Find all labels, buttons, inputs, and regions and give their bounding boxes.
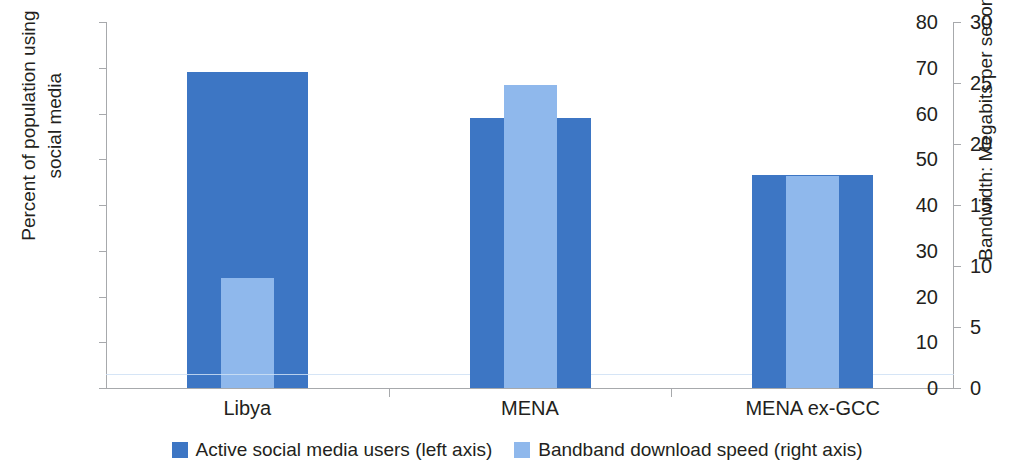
left-axis-line xyxy=(106,22,107,388)
left-tick-mark xyxy=(99,159,106,160)
legend-label: Active social media users (left axis) xyxy=(196,440,493,459)
left-tick-mark xyxy=(99,22,106,23)
right-tick-mark xyxy=(954,83,961,84)
left-tick-mark xyxy=(99,342,106,343)
left-tick-label: 10 xyxy=(878,332,938,352)
left-tick-mark xyxy=(99,297,106,298)
legend-item[interactable]: Active social media users (left axis) xyxy=(172,440,493,459)
bar-secondary xyxy=(221,278,274,388)
right-tick-mark xyxy=(954,22,961,23)
left-tick-mark xyxy=(99,68,106,69)
right-tick-label: 20 xyxy=(970,134,1030,154)
chart-legend: Active social media users (left axis)Ban… xyxy=(0,440,1034,459)
right-tick-mark xyxy=(954,327,961,328)
legend-item[interactable]: Bandband download speed (right axis) xyxy=(514,440,862,459)
right-tick-mark xyxy=(954,266,961,267)
left-axis-title: Percent of population using social media xyxy=(16,0,67,276)
right-tick-mark xyxy=(954,144,961,145)
category-separator xyxy=(671,388,672,397)
left-tick-label: 40 xyxy=(878,195,938,215)
left-tick-mark xyxy=(99,251,106,252)
right-tick-label: 30 xyxy=(970,12,1030,32)
right-tick-mark xyxy=(954,205,961,206)
left-tick-label: 0 xyxy=(878,378,938,398)
bar-secondary xyxy=(786,176,839,388)
left-tick-label: 70 xyxy=(878,58,938,78)
bar-secondary xyxy=(504,85,557,388)
left-tick-label: 60 xyxy=(878,104,938,124)
legend-swatch-icon xyxy=(514,442,530,458)
plot-area: 01020304050607080 051015202530 xyxy=(106,22,954,388)
left-tick-label: 50 xyxy=(878,149,938,169)
left-tick-label: 20 xyxy=(878,287,938,307)
left-tick-label: 80 xyxy=(878,12,938,32)
legend-label: Bandband download speed (right axis) xyxy=(538,440,862,459)
right-tick-label: 0 xyxy=(970,378,1030,398)
left-tick-mark xyxy=(99,114,106,115)
category-label: MENA xyxy=(410,398,650,418)
right-tick-label: 15 xyxy=(970,195,1030,215)
left-tick-label: 30 xyxy=(878,241,938,261)
category-separator xyxy=(389,388,390,397)
left-tick-mark xyxy=(99,205,106,206)
category-label: Libya xyxy=(127,398,367,418)
right-tick-mark xyxy=(954,388,961,389)
right-tick-label: 25 xyxy=(970,73,1030,93)
chart-figure: Percent of population using social media… xyxy=(0,0,1034,470)
left-tick-mark xyxy=(99,388,106,389)
category-label: MENA ex-GCC xyxy=(693,398,933,418)
right-tick-label: 5 xyxy=(970,317,1030,337)
right-tick-label: 10 xyxy=(970,256,1030,276)
category-axis-line xyxy=(105,388,955,389)
legend-swatch-icon xyxy=(172,442,188,458)
